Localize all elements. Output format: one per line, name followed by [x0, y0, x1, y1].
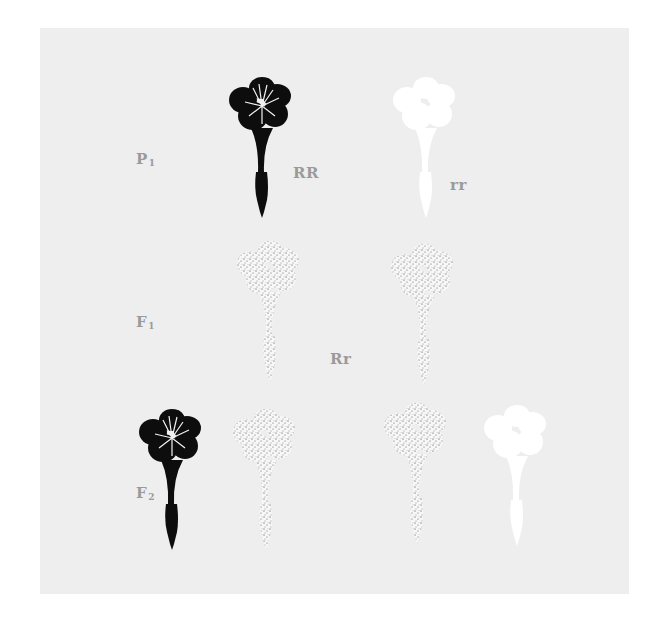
generation-label-text: F — [136, 313, 147, 331]
flower-red-p1 — [229, 76, 295, 221]
flower-white-f2 — [484, 404, 550, 549]
genotype-label-Rr: Rr — [330, 352, 351, 367]
generation-label-subscript: 1 — [149, 158, 156, 168]
flower-pink-f2-a — [233, 408, 299, 553]
generation-label-p1: P1 — [136, 152, 156, 168]
flower-pink-f1-left — [237, 240, 303, 385]
flower-pink-f2-b — [384, 402, 450, 547]
generation-label-subscript: 1 — [148, 321, 155, 331]
generation-label-text: P — [136, 150, 148, 168]
generation-label-f1: F1 — [136, 315, 155, 331]
flower-red-f2 — [139, 408, 205, 553]
genotype-label-RR: RR — [293, 166, 319, 181]
flower-pink-f1-right — [391, 243, 457, 388]
flower-white-p1 — [393, 76, 459, 221]
